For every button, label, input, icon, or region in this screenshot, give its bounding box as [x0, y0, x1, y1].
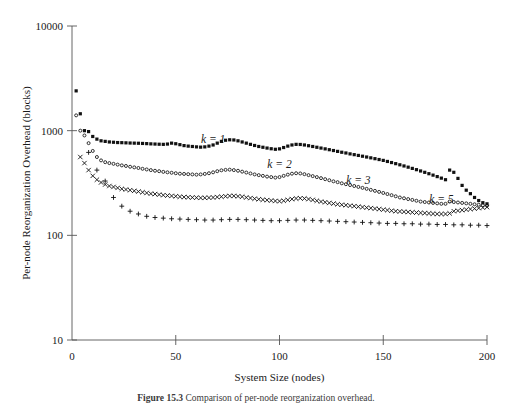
- data-point: [298, 196, 302, 200]
- data-point: [278, 176, 281, 179]
- data-point: [394, 209, 398, 213]
- data-point: [452, 171, 455, 174]
- figure-caption: Figure 15.3 Comparison of per-node reorg…: [0, 393, 512, 403]
- data-point: [319, 218, 324, 223]
- y-tick-label: 10: [52, 334, 64, 346]
- data-point: [115, 186, 119, 190]
- data-point: [402, 210, 406, 214]
- x-tick-label: 0: [69, 350, 75, 362]
- data-point: [207, 172, 210, 175]
- data-point: [166, 142, 169, 145]
- data-point: [273, 199, 277, 203]
- data-point: [299, 172, 302, 175]
- data-point: [111, 185, 115, 189]
- data-point: [465, 189, 468, 192]
- data-point: [182, 144, 185, 147]
- data-point: [194, 217, 199, 222]
- data-point: [377, 207, 381, 211]
- data-point: [385, 208, 389, 212]
- data-point: [170, 142, 173, 145]
- data-point: [116, 141, 119, 144]
- data-point: [356, 204, 360, 208]
- data-point: [331, 201, 335, 205]
- data-point: [216, 170, 219, 173]
- data-point: [323, 200, 327, 204]
- data-point: [224, 168, 227, 171]
- data-point: [261, 174, 264, 177]
- data-point: [456, 177, 459, 180]
- data-point: [315, 176, 318, 179]
- data-point: [431, 211, 435, 215]
- data-point: [285, 218, 290, 223]
- data-point: [360, 220, 365, 225]
- data-point: [419, 200, 422, 203]
- data-point: [340, 203, 344, 207]
- data-point: [149, 169, 152, 172]
- data-point: [75, 114, 78, 117]
- data-point: [307, 144, 310, 147]
- data-point: [286, 145, 289, 148]
- data-point: [390, 194, 393, 197]
- data-point: [95, 168, 100, 173]
- data-point: [360, 205, 364, 209]
- data-point: [266, 175, 269, 178]
- data-point: [162, 170, 165, 173]
- data-point: [202, 218, 207, 223]
- data-point: [344, 203, 348, 207]
- data-point: [407, 166, 410, 169]
- data-point: [485, 223, 490, 228]
- data-point: [232, 194, 236, 198]
- data-point: [83, 134, 86, 137]
- data-point: [108, 162, 111, 165]
- data-point: [86, 168, 90, 172]
- data-point: [245, 142, 248, 145]
- data-point: [187, 173, 190, 176]
- data-point: [249, 172, 252, 175]
- data-point: [295, 172, 298, 175]
- data-point: [95, 178, 99, 182]
- data-point: [332, 149, 335, 152]
- data-point: [310, 218, 315, 223]
- data-point: [78, 155, 82, 159]
- data-point: [411, 167, 414, 170]
- data-point: [469, 192, 472, 195]
- data-point: [373, 157, 376, 160]
- data-point: [485, 205, 489, 209]
- data-point: [311, 145, 314, 148]
- data-point: [427, 211, 431, 215]
- data-point: [237, 169, 240, 172]
- data-point: [228, 138, 231, 141]
- data-point: [461, 184, 464, 187]
- data-point: [183, 172, 186, 175]
- data-point: [86, 150, 91, 155]
- data-point: [257, 145, 260, 148]
- data-point: [145, 142, 148, 145]
- data-point: [369, 188, 372, 191]
- data-point: [398, 163, 401, 166]
- data-point: [336, 181, 339, 184]
- data-point: [464, 207, 468, 211]
- x-axis-title: System Size (nodes): [235, 371, 325, 384]
- data-point: [418, 222, 423, 227]
- data-point: [211, 195, 215, 199]
- data-point: [335, 202, 339, 206]
- data-point: [469, 202, 472, 205]
- data-point: [274, 148, 277, 151]
- data-point: [132, 189, 136, 193]
- data-point: [252, 196, 256, 200]
- data-point: [473, 196, 476, 199]
- data-point: [477, 203, 480, 206]
- data-point: [277, 199, 281, 203]
- data-point: [411, 198, 414, 201]
- data-point: [290, 172, 293, 175]
- data-point: [178, 217, 183, 222]
- data-point: [427, 172, 430, 175]
- data-point: [436, 175, 439, 178]
- data-point: [124, 187, 128, 191]
- data-point: [456, 208, 460, 212]
- data-point: [253, 144, 256, 147]
- data-point: [116, 163, 119, 166]
- data-point: [476, 223, 481, 228]
- data-point: [344, 151, 347, 154]
- data-point: [286, 198, 290, 202]
